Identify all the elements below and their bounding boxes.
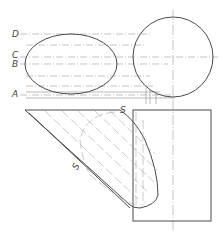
label-a: A (11, 89, 18, 99)
reference-lines (20, 34, 218, 98)
label-d: D (12, 29, 19, 39)
hatch-line (78, 111, 154, 182)
cylinder-rectangle (133, 110, 211, 221)
label-s-top: S (120, 105, 126, 115)
technical-drawing: D C B A S S (0, 0, 223, 237)
hatch-line (95, 111, 157, 170)
section-outline (25, 110, 158, 208)
hatch-line (62, 111, 148, 192)
hidden-curve (80, 112, 135, 205)
section-body (25, 110, 158, 208)
label-s-bottom: S (70, 161, 82, 171)
label-b: B (12, 59, 18, 69)
